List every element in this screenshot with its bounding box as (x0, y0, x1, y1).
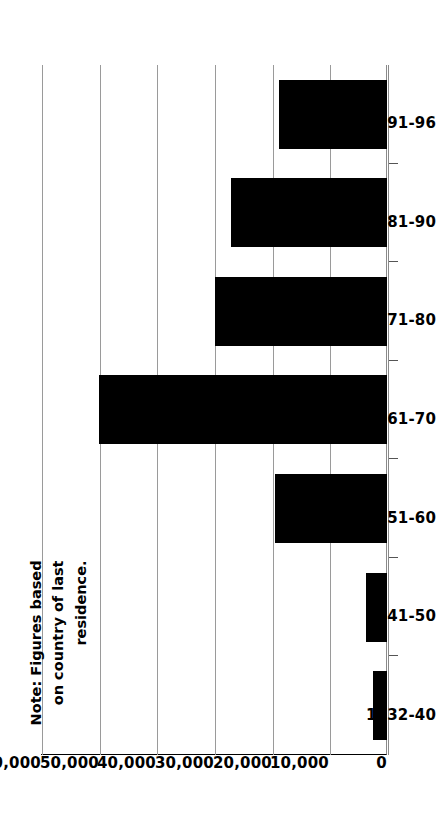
plot-area: 010,00020,00030,00040,00050,00060,000 19… (41, 65, 389, 755)
category-label-1971-80: 1971-80 (366, 311, 436, 329)
category-label-1941-50: 1941-50 (366, 607, 436, 625)
chart-note: Note: Figures based on country of last r… (25, 560, 92, 725)
category-tick-1 (389, 655, 398, 656)
value-tick-label-0: 0 (376, 754, 387, 772)
category-tick-5 (389, 261, 398, 262)
category-label-1961-70: 1961-70 (366, 410, 436, 428)
value-axis-tick-labels: 010,00020,00030,00040,00050,00060,000 (41, 65, 387, 755)
category-label-1951-60: 1951-60 (366, 509, 436, 527)
value-tick-label-20000: 20,000 (213, 754, 272, 772)
chart-rotation-wrapper: 010,00020,00030,00040,00050,00060,000 19… (41, 65, 389, 755)
category-label-1981-90: 1981-90 (366, 213, 436, 231)
value-tick-label-50000: 50,000 (40, 754, 99, 772)
category-tick-2 (389, 557, 398, 558)
category-tick-4 (389, 360, 398, 361)
category-tick-3 (389, 458, 398, 459)
category-tick-6 (389, 163, 398, 164)
category-label-1991-96: 1991-96 (366, 114, 436, 132)
category-label-1932-40: 1932-40 (366, 706, 436, 724)
value-tick-label-40000: 40,000 (97, 754, 156, 772)
value-tick-label-10000: 10,000 (270, 754, 329, 772)
value-tick-label-30000: 30,000 (155, 754, 214, 772)
value-tick-label-60000: 60,000 (0, 754, 41, 772)
